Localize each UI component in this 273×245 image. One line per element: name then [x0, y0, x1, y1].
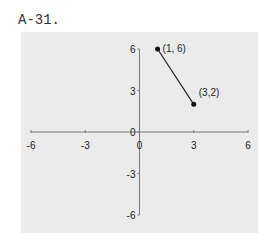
y-tick-label: 0 — [130, 127, 136, 138]
data-point — [191, 102, 196, 107]
x-tick-label: 0 — [137, 140, 143, 151]
x-tick-label: 6 — [245, 140, 251, 151]
x-tick-label: -6 — [27, 140, 36, 151]
y-tick-label: 6 — [130, 44, 136, 55]
y-tick-label: -3 — [127, 169, 136, 180]
x-tick-label: -3 — [81, 140, 90, 151]
x-tick-label: 3 — [191, 140, 197, 151]
line-segment — [158, 49, 194, 104]
y-tick-label: 3 — [130, 86, 136, 97]
coordinate-plane: -6-3036-6-3036(1, 6)(3,2) — [0, 0, 273, 245]
point-label: (3,2) — [199, 87, 220, 98]
point-label: (1, 6) — [163, 43, 186, 54]
y-tick-label: -6 — [127, 210, 136, 221]
data-point — [155, 47, 160, 52]
